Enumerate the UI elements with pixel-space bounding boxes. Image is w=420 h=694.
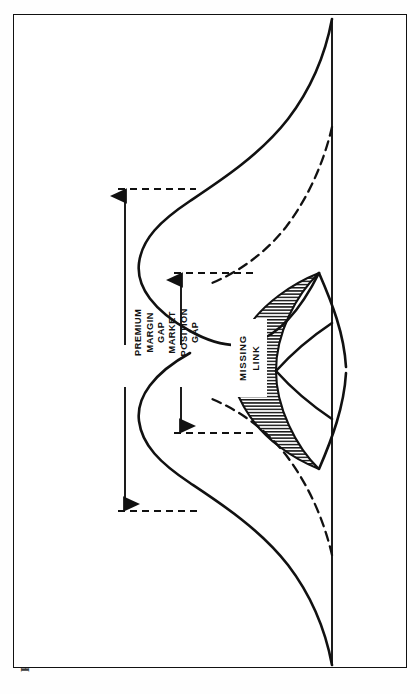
lower-solid-lobe-curve	[139, 353, 332, 665]
upper-dashed-lobe-curve	[212, 127, 332, 283]
figure-frame: PREMIUM MARGIN GAP MARKET POSITION GAP M…	[13, 14, 407, 668]
figure-drawing-canvas	[14, 15, 408, 669]
crossing-tail-lower-to-axis	[276, 323, 332, 371]
